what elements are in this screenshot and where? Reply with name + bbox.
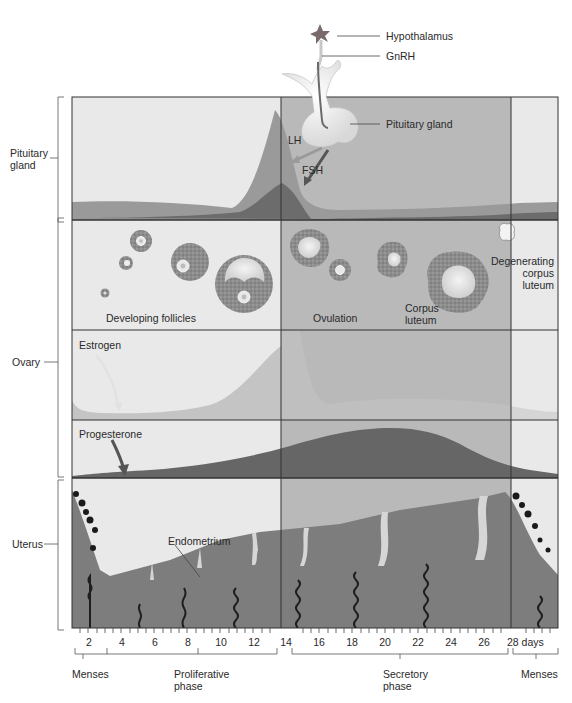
tick-label: 16 — [310, 636, 328, 648]
degenerating-cl-label-line1: Degenerating — [470, 255, 554, 267]
tick-label-days: 28 days — [507, 636, 544, 648]
tick-label: 24 — [442, 636, 460, 648]
pituitary-gland-label: Pituitary gland — [386, 118, 453, 130]
lh-label: LH — [288, 134, 301, 146]
follicle-small-1 — [101, 289, 110, 298]
phase-label-menses-2: Menses — [521, 668, 558, 680]
degenerating-cl-label-line2: corpus — [470, 267, 554, 279]
corpus-luteum-label-line2: luteum — [405, 314, 437, 326]
phase-label-menses-1: Menses — [72, 668, 109, 680]
row-label-pituitary-line2: gland — [10, 159, 36, 171]
fsh-label: FSH — [302, 164, 323, 176]
tick-label: 26 — [475, 636, 493, 648]
tick-label: 18 — [343, 636, 361, 648]
developing-follicles-label: Developing follicles — [106, 312, 196, 324]
tick-label: 14 — [277, 636, 295, 648]
row-label-pituitary-line1: Pituitary — [10, 147, 48, 159]
corpus-luteum-label-line1: Corpus — [405, 302, 439, 314]
tick-label: 6 — [146, 636, 164, 648]
row-brackets — [44, 97, 64, 630]
row-label-ovary: Ovary — [12, 356, 40, 368]
estrogen-label: Estrogen — [79, 339, 121, 351]
follicle-small-2 — [119, 256, 133, 270]
ovulation-label: Ovulation — [313, 312, 357, 324]
gnrh-label: GnRH — [386, 50, 415, 62]
tick-label: 4 — [113, 636, 131, 648]
tick-label: 20 — [376, 636, 394, 648]
tick-label: 8 — [179, 636, 197, 648]
phase-label-secretory-line1: Secretory — [383, 668, 428, 680]
progesterone-label: Progesterone — [79, 428, 142, 440]
degenerating-cl-label-line3: luteum — [470, 279, 554, 291]
degenerating-corpus-luteum — [499, 223, 514, 240]
follicle-medium — [171, 243, 209, 281]
menstrual-cycle-diagram — [0, 0, 572, 703]
tick-label: 22 — [409, 636, 427, 648]
phase-label-proliferative-line1: Proliferative — [174, 668, 229, 680]
tick-label: 2 — [80, 636, 98, 648]
follicle-small-3 — [130, 230, 152, 252]
follicle-mature — [215, 255, 273, 313]
tick-label: 10 — [212, 636, 230, 648]
corpus-luteum-small — [377, 242, 407, 278]
phase-brackets — [75, 648, 558, 659]
endometrium-label: Endometrium — [168, 535, 230, 547]
phase-label-secretory-line2: phase — [383, 680, 412, 692]
row-label-uterus: Uterus — [12, 538, 43, 550]
hypothalamus-label: Hypothalamus — [386, 30, 453, 42]
tick-label: 12 — [245, 636, 263, 648]
day-axis-ticks — [80, 628, 550, 633]
phase-label-proliferative-line2: phase — [174, 680, 203, 692]
